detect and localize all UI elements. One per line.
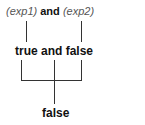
expression-template: (exp1) and (exp2) <box>6 5 94 18</box>
operand2-label: (exp2) <box>63 5 94 17</box>
connector-operand2 <box>81 21 82 42</box>
bracket-right <box>81 60 82 81</box>
bracket-left <box>21 60 22 81</box>
bracket-horizontal <box>21 80 82 81</box>
result-value: false <box>42 106 69 120</box>
evaluated-expression: true and false <box>15 44 93 58</box>
operand1-label: (exp1) <box>6 5 37 17</box>
bracket-middle <box>54 60 55 104</box>
operator-label: and <box>40 5 60 17</box>
connector-operand1 <box>26 21 27 42</box>
